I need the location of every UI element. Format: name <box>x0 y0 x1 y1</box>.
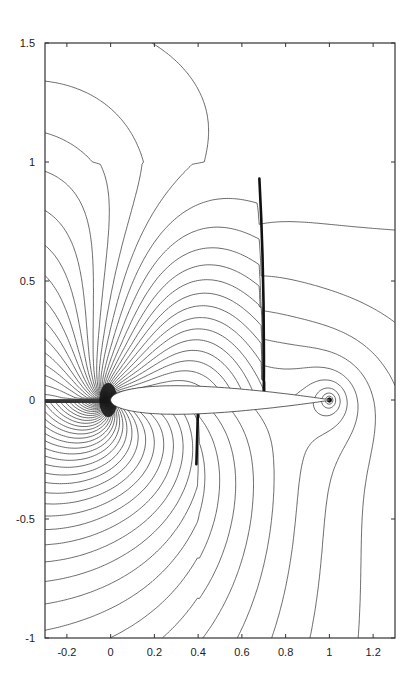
y-tick-label: 0 <box>29 394 35 406</box>
contour-line <box>45 396 154 516</box>
contour-line <box>45 265 375 638</box>
y-tick-label: -1 <box>25 632 35 644</box>
plot-frame <box>45 43 395 638</box>
contour-plot: -0.200.20.40.60.811.2 -1-0.500.511.5 <box>0 0 418 683</box>
contour-line <box>45 81 144 401</box>
y-axis: -1-0.500.511.5 <box>16 37 395 644</box>
y-tick-label: 1 <box>29 156 35 168</box>
x-tick-label: 0.6 <box>234 646 249 658</box>
contour-lines <box>45 43 395 638</box>
x-tick-label: -0.2 <box>57 646 76 658</box>
contour-line <box>45 133 109 401</box>
contour-line <box>45 211 105 401</box>
contour-line <box>45 293 347 638</box>
x-tick-label: 0.8 <box>278 646 293 658</box>
contour-line <box>45 276 104 401</box>
x-tick-label: 0 <box>108 646 114 658</box>
airfoil-shape <box>111 386 330 415</box>
x-tick-label: 0.2 <box>147 646 162 658</box>
contour-line <box>45 248 395 401</box>
x-tick-label: 1 <box>326 646 332 658</box>
y-tick-label: 0.5 <box>20 275 35 287</box>
y-tick-label: -0.5 <box>16 513 35 525</box>
contour-line <box>45 329 333 638</box>
x-tick-label: 0.4 <box>190 646 205 658</box>
contour-line <box>45 198 395 400</box>
x-tick-label: 1.2 <box>365 646 380 658</box>
contour-line <box>45 43 209 401</box>
contour-line <box>45 245 105 400</box>
contour-line <box>45 318 336 638</box>
contour-line <box>45 280 358 638</box>
y-tick-label: 1.5 <box>20 37 35 49</box>
